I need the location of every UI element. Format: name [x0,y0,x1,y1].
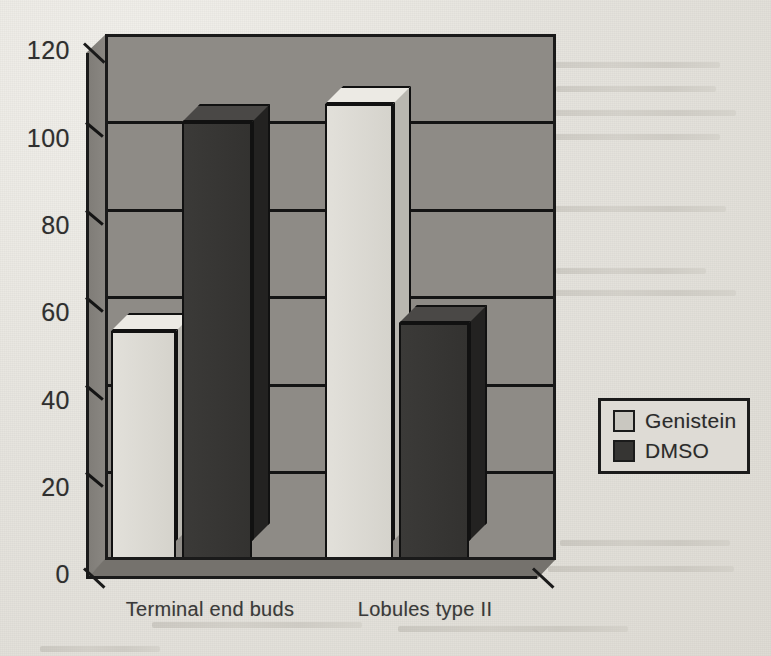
axis-left-edge [86,53,89,579]
bar-dmso-lobules-type-ii[interactable] [399,34,469,559]
bar-front-face [111,331,176,559]
bar-genistein-lobules-type-ii[interactable] [325,34,393,559]
y-tick-label-0: 0 [10,560,70,589]
y-tick-label-80: 80 [10,211,70,240]
bar-chart-figure: 120 100 80 60 40 20 0 [0,0,771,656]
x-category-label-terminal-end-buds: Terminal end buds [110,598,310,621]
legend-swatch-genistein-icon [613,410,635,432]
chart-legend: Genistein DMSO [598,398,750,474]
y-tick-label-40: 40 [10,386,70,415]
axis-baseline [86,576,537,579]
bar-front-face [399,323,469,559]
bar-front-face [325,104,393,559]
axis-back-left-edge [105,34,108,559]
y-tick-label-60: 60 [10,298,70,327]
bar-genistein-terminal-end-buds[interactable] [111,34,176,559]
y-tick-label-100: 100 [10,124,70,153]
y-tick-label-20: 20 [10,473,70,502]
legend-item-dmso[interactable]: DMSO [613,439,747,463]
axis-right-edge [553,34,556,560]
axis-back-baseline [105,557,556,560]
plot-area [86,34,556,579]
x-category-label-lobules-type-ii: Lobules type II [330,598,520,621]
legend-label-genistein: Genistein [645,409,736,433]
bar-front-face [182,122,252,559]
y-tick-label-120: 120 [10,36,70,65]
axis-top-edge [105,34,556,37]
legend-item-genistein[interactable]: Genistein [613,409,747,433]
bar-dmso-terminal-end-buds[interactable] [182,34,252,559]
bar-side-face [469,305,487,541]
bar-side-face [252,104,270,541]
legend-label-dmso: DMSO [645,439,709,463]
legend-swatch-dmso-icon [613,440,635,462]
